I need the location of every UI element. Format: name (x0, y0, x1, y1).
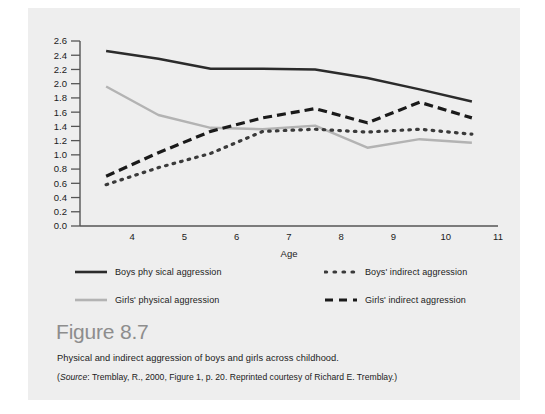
series-line-girls-physical-aggression (106, 87, 472, 148)
line-chart: 0.00.20.40.60.81.01.21.41.61.82.02.22.42… (28, 8, 520, 266)
figure-source-note: (Source: Tremblay, R., 2000, Figure 1, p… (57, 372, 397, 382)
y-axis-tick-labels: 0.00.20.40.60.81.01.21.41.61.82.02.22.42… (54, 35, 67, 231)
y-axis-tick-label: 1.0 (54, 149, 67, 160)
y-axis-tick-label: 2.6 (54, 35, 67, 46)
series-line-boys-indirect-aggression (106, 129, 472, 184)
legend-item-girls-physical: Girls' physical aggression (74, 294, 219, 305)
source-body-text: : Tremblay, R., 2000, Figure 1, p. 20. R… (87, 372, 397, 382)
legend-label-boys-physical: Boys phy sical aggression (115, 267, 222, 277)
x-axis-tick-label: 11 (493, 231, 503, 242)
y-axis-tick-label: 1.6 (54, 107, 67, 118)
y-axis-tick-label: 0.2 (54, 206, 67, 217)
y-axis-tick-label: 0.4 (54, 192, 67, 203)
y-axis-tick-label: 0.0 (54, 220, 67, 231)
legend-swatch-line-boys-physical (74, 267, 108, 277)
legend-swatch-line-girls-physical (74, 295, 108, 305)
y-axis-tick-label: 0.8 (54, 163, 67, 174)
x-axis-tick-label: 10 (440, 231, 451, 242)
legend-swatch-girls-physical (74, 295, 108, 305)
x-axis-tick-label: 8 (339, 231, 344, 242)
x-axis-tick-label: 6 (234, 231, 239, 242)
x-axis-title: Age (281, 248, 298, 259)
legend-item-girls-indirect: Girls' indirect aggression (324, 294, 466, 305)
y-axis-tick-label: 2.4 (54, 50, 67, 61)
legend-item-boys-indirect: Boys' indirect aggression (324, 266, 467, 277)
figure-card: 0.00.20.40.60.81.01.21.41.61.82.02.22.42… (28, 8, 520, 400)
x-axis-tick-label: 5 (182, 231, 187, 242)
source-italic-label: Source (60, 372, 87, 382)
x-axis-tick-label: 9 (391, 231, 396, 242)
legend-swatch-girls-indirect (324, 295, 358, 305)
x-axis-tick-label: 4 (130, 231, 135, 242)
legend-swatch-line-girls-indirect (324, 295, 358, 305)
y-axis-tick-label: 1.2 (54, 135, 67, 146)
y-axis-tick-label: 2.0 (54, 78, 67, 89)
legend-swatch-boys-physical (74, 267, 108, 277)
figure-caption: Physical and indirect aggression of boys… (57, 353, 339, 363)
y-axis-ticks (71, 41, 80, 226)
legend-label-boys-indirect: Boys' indirect aggression (365, 267, 467, 277)
legend-swatch-boys-indirect (324, 267, 358, 277)
figure-number-heading: Figure 8.7 (56, 320, 149, 344)
y-axis-tick-label: 1.4 (54, 121, 67, 132)
x-axis-tick-labels: 4567891011 (130, 231, 503, 242)
y-axis-tick-label: 0.6 (54, 178, 67, 189)
series-line-boys-phy-sical-aggression (106, 51, 472, 102)
legend-item-boys-physical: Boys phy sical aggression (74, 266, 222, 277)
x-axis-tick-label: 7 (286, 231, 291, 242)
y-axis-tick-label: 1.8 (54, 92, 67, 103)
legend-swatch-line-boys-indirect (324, 267, 358, 277)
legend-label-girls-physical: Girls' physical aggression (115, 295, 219, 305)
legend-label-girls-indirect: Girls' indirect aggression (365, 295, 466, 305)
chart-series-group (106, 51, 472, 185)
chart-plot-area: 0.00.20.40.60.81.01.21.41.61.82.02.22.42… (28, 8, 520, 266)
y-axis-tick-label: 2.2 (54, 64, 67, 75)
